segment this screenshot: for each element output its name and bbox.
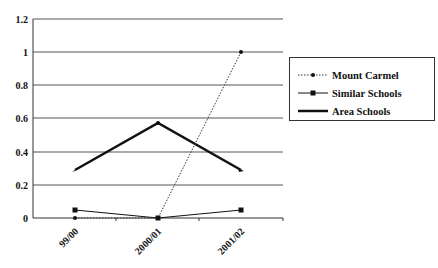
legend-item-similar-schools: Similar Schools: [298, 86, 402, 100]
svg-text:1: 1: [23, 47, 28, 58]
series-area-schools: [72, 121, 244, 172]
legend: Mount Carmel Similar Schools Area School…: [289, 57, 435, 121]
series-mount-carmel: [73, 50, 243, 220]
y-tick-labels: 0 0.2 0.4 0.6 0.8 1 1.2: [16, 14, 29, 224]
line-chart: 0 0.2 0.4 0.6 0.8 1 1.2 99/00 2000/01 20…: [0, 0, 438, 268]
svg-text:0.8: 0.8: [16, 80, 29, 91]
svg-text:2001/02: 2001/02: [215, 226, 246, 257]
legend-item-area-schools: Area Schools: [298, 104, 390, 118]
svg-text:0.4: 0.4: [16, 147, 29, 158]
thick-line-icon: [298, 107, 328, 115]
dotted-line-icon: [298, 71, 328, 79]
gridlines: [33, 19, 283, 185]
axes: [33, 19, 283, 221]
svg-text:2000/01: 2000/01: [132, 226, 163, 257]
thin-line-square-icon: [298, 89, 328, 97]
svg-text:99/00: 99/00: [57, 226, 81, 250]
svg-text:0.2: 0.2: [16, 180, 29, 191]
x-tick-labels: 99/00 2000/01 2001/02: [57, 226, 247, 257]
svg-text:0.6: 0.6: [16, 113, 29, 124]
svg-text:0: 0: [23, 213, 28, 224]
svg-text:1.2: 1.2: [16, 14, 29, 25]
legend-item-mount-carmel: Mount Carmel: [298, 68, 399, 82]
